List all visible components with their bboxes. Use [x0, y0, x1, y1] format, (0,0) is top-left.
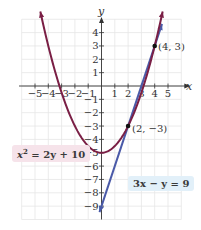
svg-text:4: 4 [92, 27, 98, 38]
svg-text:−1: −1 [84, 94, 99, 105]
x-axis-label: x [186, 80, 193, 93]
graph: −5−4−3−2−1123454321−1−2−3−4−5−6−7−8−9 x … [0, 0, 201, 230]
svg-text:−6: −6 [84, 161, 99, 172]
svg-text:−3: −3 [84, 121, 99, 132]
point-label-2-neg3: (2, −3) [132, 123, 167, 134]
svg-text:−2: −2 [84, 107, 99, 118]
svg-text:−9: −9 [84, 201, 99, 212]
svg-text:2: 2 [125, 88, 131, 99]
svg-text:1: 1 [92, 67, 98, 78]
svg-text:4: 4 [152, 88, 158, 99]
point-label-4-3: (4, 3) [158, 41, 185, 52]
svg-text:3: 3 [92, 40, 98, 51]
eq-rest: = 2y + 10 [28, 149, 85, 160]
svg-text:−8: −8 [84, 187, 99, 198]
y-axis-label: y [97, 5, 105, 18]
parabola-equation-label: x2 = 2y + 10 [12, 145, 90, 162]
svg-text:1: 1 [112, 88, 118, 99]
svg-text:−7: −7 [84, 174, 99, 185]
line-equation-label: 3x − y = 9 [128, 176, 194, 191]
svg-text:5: 5 [165, 88, 171, 99]
svg-text:2: 2 [92, 54, 98, 65]
